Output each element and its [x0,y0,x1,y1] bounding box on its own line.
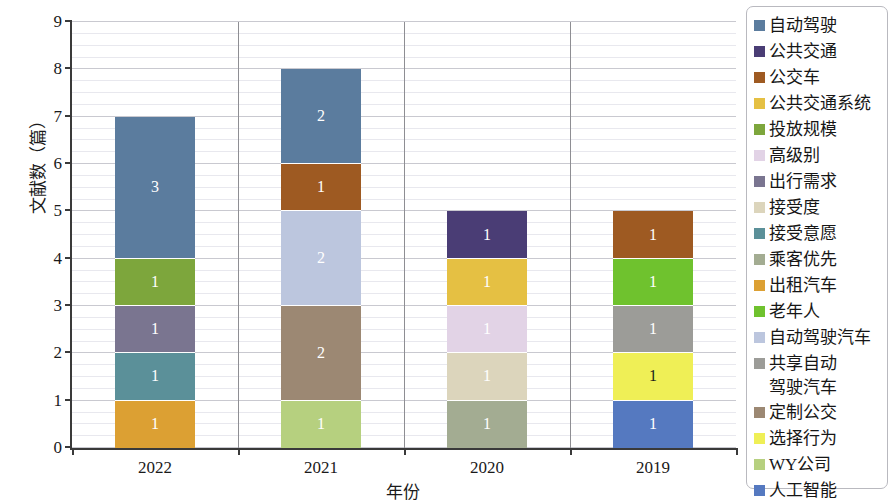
x-tick-mark [570,448,572,455]
x-tick-label-2022: 2022 [72,458,238,478]
x-tick-label-2021: 2021 [238,458,404,478]
x-axis-ticks: 2022202120202019 [72,22,736,448]
legend-label: 出行需求 [769,170,837,194]
legend-swatch-icon [754,124,765,135]
x-tick-mark [736,448,738,455]
y-tick-label: 2 [54,343,63,363]
y-tick-label: 8 [54,59,63,79]
x-tick-label-2019: 2019 [570,458,736,478]
legend-label: 出租汽车 [769,274,837,298]
y-tick-label: 9 [54,12,63,32]
legend-swatch-icon [754,20,765,31]
legend-swatch-icon [754,280,765,291]
legend-label: 老年人 [769,300,820,324]
legend-label: 高级别 [769,144,820,168]
legend-swatch-icon [754,459,765,470]
x-axis-title: 年份 [70,478,736,503]
legend-swatch-icon [754,228,765,239]
legend-item[interactable]: 选择行为 [754,427,883,452]
legend-label: 自动驾驶汽车 [769,326,871,350]
legend-item[interactable]: 老年人 [754,300,883,325]
x-tick-mark [238,448,240,455]
y-axis-title: 文献数（篇） [24,83,49,243]
legend-label: 自动驾驶 [769,14,837,38]
y-tick-mark [65,209,72,211]
y-tick-mark [65,351,72,353]
legend-label: 投放规模 [769,118,837,142]
y-tick-mark [65,399,72,401]
x-tick-label-2020: 2020 [404,458,570,478]
legend-item[interactable]: 定制公交 [754,401,883,426]
legend-item[interactable]: 高级别 [754,144,883,169]
legend-item[interactable]: 自动驾驶汽车 [754,326,883,351]
plot-area: 0123456789 31111212211111111111 20222021… [70,22,736,450]
y-tick-mark [65,20,72,22]
legend-swatch-icon [754,98,765,109]
legend-label: 公共交通系统 [769,92,871,116]
legend-swatch-icon [754,202,765,213]
legend-label: 乘客优先 [769,248,837,272]
x-tick-mark [72,448,74,455]
legend-swatch-icon [754,72,765,83]
legend-item[interactable]: 共享自动 驾驶汽车 [754,352,883,400]
y-tick-mark [65,446,72,448]
y-tick-mark [65,115,72,117]
legend-item[interactable]: 出行需求 [754,170,883,195]
legend-label: 公交车 [769,66,820,90]
legend-item[interactable]: 公共交通系统 [754,92,883,117]
y-tick-label: 3 [54,296,63,316]
legend-label: WY公司 [769,453,831,477]
y-tick-label: 6 [54,154,63,174]
y-tick-mark [65,257,72,259]
legend-swatch-icon [754,485,765,496]
legend-label: 定制公交 [769,401,837,425]
y-tick-mark [65,67,72,69]
legend-item[interactable]: 乘客优先 [754,248,883,273]
legend-item[interactable]: 投放规模 [754,118,883,143]
legend-swatch-icon [754,358,765,369]
legend-label: 共享自动 驾驶汽车 [769,352,837,400]
legend-swatch-icon [754,46,765,57]
y-tick-mark [65,304,72,306]
legend-swatch-icon [754,176,765,187]
legend-item[interactable]: 接受意愿 [754,222,883,247]
legend-label: 公共交通 [769,40,837,64]
y-tick-mark [65,162,72,164]
legend-label: 接受意愿 [769,222,837,246]
legend-item[interactable]: 公交车 [754,66,883,91]
y-tick-label: 0 [54,438,63,458]
legend-item[interactable]: 出租汽车 [754,274,883,299]
legend-item[interactable]: 人工智能 [754,479,883,504]
legend-swatch-icon [754,407,765,418]
legend-label: 选择行为 [769,427,837,451]
legend-swatch-icon [754,254,765,265]
y-tick-label: 5 [54,201,63,221]
legend-swatch-icon [754,433,765,444]
legend-item[interactable]: 公共交通 [754,40,883,65]
legend-swatch-icon [754,306,765,317]
legend-swatch-icon [754,332,765,343]
x-tick-mark [404,448,406,455]
legend-item[interactable]: WY公司 [754,453,883,478]
y-tick-label: 4 [54,249,63,269]
legend-swatch-icon [754,150,765,161]
y-tick-label: 1 [54,391,63,411]
legend-item[interactable]: 自动驾驶 [754,14,883,39]
legend-label: 接受度 [769,196,820,220]
y-tick-label: 7 [54,107,63,127]
legend-item[interactable]: 接受度 [754,196,883,221]
chart-legend: 自动驾驶公共交通公交车公共交通系统投放规模高级别出行需求接受度接受意愿乘客优先出… [746,6,888,489]
legend-label: 人工智能 [769,479,837,503]
